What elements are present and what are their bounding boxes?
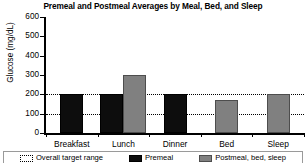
x-tick-mark [149,133,150,137]
y-tick-label: 300 [9,71,39,79]
y-tick-mark [40,94,44,95]
x-tick-mark [252,133,253,137]
x-tick-mark [98,133,99,137]
y-tick-label: 100 [9,110,39,118]
y-tick-mark [40,17,44,18]
legend-label: Postmeal, bed, sleep [215,154,286,162]
y-tick-mark [40,75,44,76]
x-tick-label-breakfast: Breakfast [54,139,89,149]
y-tick-label: 400 [9,52,39,60]
legend-swatch-icon [129,155,142,162]
bar-sleep-postmeal [267,94,290,133]
y-tick-mark [40,133,44,134]
bar-lunch-postmeal [123,75,146,133]
chart-title: Premeal and Postmeal Averages by Meal, B… [0,1,306,11]
x-tick-mark [304,133,305,137]
x-tick-label-lunch: Lunch [112,139,135,149]
legend-swatch-icon [199,155,212,162]
plot-area: 0100200300400500600 BreakfastLunchDinner… [46,17,304,133]
x-tick-label-bed: Bed [219,139,234,149]
x-tick-mark [201,133,202,137]
x-tick-mark [46,133,47,137]
x-axis-line [44,133,304,135]
legend-label: Premeal [145,154,173,162]
y-tick-label: 200 [9,90,39,98]
glucose-bar-chart: Premeal and Postmeal Averages by Meal, B… [0,0,306,163]
bar-bed-postmeal [215,100,238,133]
x-tick-label-dinner: Dinner [163,139,188,149]
bar-lunch-premeal [100,94,123,133]
legend-swatch-icon [20,155,33,162]
chart-legend: Overall target rangePremealPostmeal, bed… [3,151,303,163]
bar-breakfast-premeal [60,94,83,133]
legend-entry-1[interactable]: Premeal [129,154,173,162]
legend-label: Overall target range [36,154,103,162]
y-tick-label: 0 [9,129,39,137]
legend-entry-2[interactable]: Postmeal, bed, sleep [199,154,286,162]
y-tick-mark [40,56,44,57]
y-tick-label: 500 [9,32,39,40]
y-tick-mark [40,114,44,115]
bar-dinner-premeal [164,94,187,133]
x-tick-label-sleep: Sleep [267,139,288,149]
legend-entry-0[interactable]: Overall target range [20,154,103,162]
y-tick-label: 600 [9,13,39,21]
y-tick-mark [40,36,44,37]
y-axis-line [44,17,46,134]
